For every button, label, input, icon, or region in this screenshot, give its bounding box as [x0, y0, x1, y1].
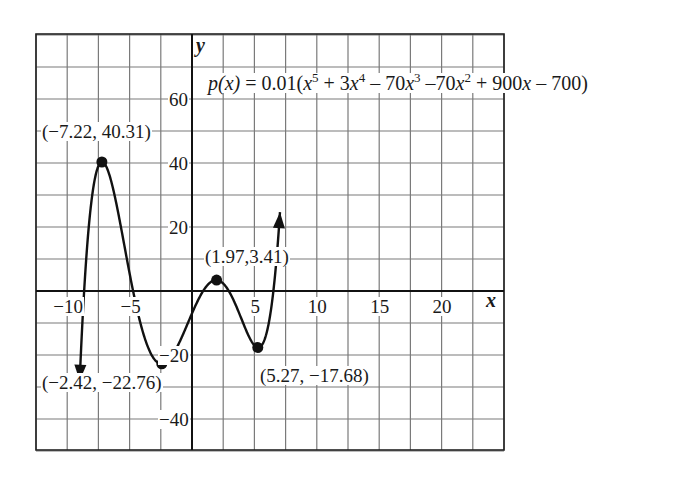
equation-term: + 3x4: [319, 72, 366, 94]
x-tick-label: 15: [369, 297, 390, 316]
y-tick-label: −40: [158, 410, 190, 429]
equation-term: – 70x3: [365, 72, 420, 94]
point-label-min-left: (−2.42, −22.76): [41, 373, 163, 392]
y-tick-label: 40: [168, 154, 189, 173]
x-tick-label: 10: [307, 297, 328, 316]
x-tick-label: −10: [52, 297, 84, 316]
equation-term: – 700): [531, 72, 588, 94]
equation-term: x5: [303, 72, 318, 94]
x-tick-label: −5: [120, 297, 142, 316]
x-tick-label: 5: [249, 297, 261, 316]
equation-terms: x5 + 3x4 – 70x3 –70x2 + 900x – 700): [303, 72, 588, 94]
equation-label: p(x) = 0.01(x5 + 3x4 – 70x3 –70x2 + 900x…: [206, 73, 590, 93]
equation-term: –70x2: [421, 72, 471, 94]
equation-equals: =: [245, 72, 256, 94]
x-tick-label: 20: [432, 297, 453, 316]
equation-term: + 900x: [471, 72, 531, 94]
y-tick-label: 60: [168, 90, 189, 109]
x-axis-label: x: [486, 290, 496, 310]
y-axis-label: y: [196, 35, 205, 55]
y-tick-label: −20: [158, 346, 190, 365]
equation-coef: 0.01(: [261, 72, 303, 94]
point-label-max-right: (1.97,3.41): [204, 247, 290, 266]
point-label-max-left: (−7.22, 40.31): [41, 122, 152, 141]
equation-lhs: p(x): [208, 72, 240, 94]
point-label-min-right: (5.27, −17.68): [259, 366, 370, 385]
y-tick-label: 20: [168, 218, 189, 237]
